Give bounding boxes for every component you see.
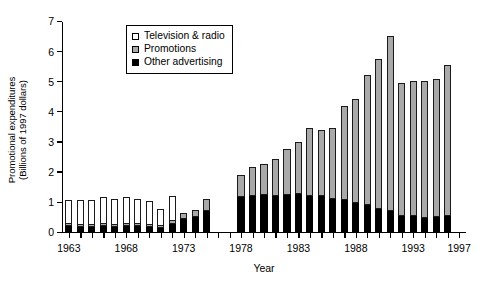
x-axis-tick-label: 1978 (229, 243, 252, 254)
bar-segment-other-advertising (421, 218, 428, 233)
bar-1995 (433, 79, 440, 233)
bar-segment-other-advertising (387, 211, 394, 233)
x-axis-tick (390, 233, 391, 238)
y-axis-tick-label: 6 (48, 46, 54, 57)
bar-segment-promotions (341, 106, 348, 200)
x-axis-tick (207, 233, 208, 238)
bar-1982 (283, 149, 290, 233)
x-axis-tick (103, 233, 104, 238)
bar-segment-other-advertising (237, 197, 244, 233)
y-axis-title-line2: (Billions of 1997 dollars) (17, 80, 29, 180)
legend-label-television-radio: Television & radio (144, 31, 225, 41)
bar-segment-other-advertising (180, 219, 187, 233)
legend-item-other-advertising: Other advertising (132, 56, 225, 69)
bar-1972 (169, 196, 176, 233)
bar-1981 (272, 159, 279, 233)
bar-segment-other-advertising (283, 195, 290, 233)
bar-segment-promotions (272, 159, 279, 196)
legend-label-promotions: Promotions (144, 44, 196, 54)
bar-segment-promotions (180, 213, 187, 220)
bar-1966 (100, 197, 107, 233)
x-axis-tick (264, 233, 265, 238)
x-axis-tick (138, 233, 139, 238)
bar-segment-promotions (192, 210, 199, 218)
bar-segment-other-advertising (123, 226, 130, 233)
legend-item-promotions: Promotions (132, 43, 225, 56)
bar-1993 (410, 81, 417, 233)
bar-segment-promotions (444, 65, 451, 216)
bar-segment-other-advertising (410, 216, 417, 233)
x-axis-tick (356, 233, 357, 238)
bar-1996 (444, 65, 451, 233)
x-axis-tick (218, 233, 219, 238)
legend-label-other-advertising: Other advertising (144, 57, 222, 67)
y-axis-tick-label: 2 (48, 167, 54, 178)
x-axis-tick (161, 233, 162, 238)
bar-1985 (318, 130, 325, 233)
bar-segment-other-advertising (318, 196, 325, 233)
bar-segment-television-radio (169, 196, 176, 220)
bar-segment-promotions (203, 199, 210, 212)
x-axis-tick (287, 233, 288, 238)
x-axis-tick (459, 233, 460, 238)
bar-segment-other-advertising (65, 226, 72, 233)
y-axis-title-line1: Promotional expenditures (6, 77, 18, 183)
x-axis-tick-label: 1997 (447, 243, 470, 254)
bar-1963 (65, 200, 72, 233)
bar-segment-other-advertising (192, 217, 199, 233)
y-axis-tick-label: 4 (48, 107, 54, 118)
bar-segment-promotions (260, 164, 267, 195)
x-axis-tick (321, 233, 322, 238)
bar-1965 (88, 200, 95, 233)
x-axis-tick (69, 233, 70, 238)
bar-1984 (306, 128, 313, 233)
bar-segment-promotions (364, 75, 371, 205)
bars-layer (62, 22, 466, 233)
bar-segment-television-radio (123, 197, 130, 224)
bar-segment-other-advertising (100, 226, 107, 233)
bar-1992 (398, 83, 405, 233)
promotional-expenditures-chart: Promotional expenditures (Billions of 19… (0, 0, 490, 286)
bar-segment-promotions (387, 36, 394, 211)
x-axis-tick (344, 233, 345, 238)
x-axis-tick (80, 233, 81, 238)
bar-segment-other-advertising (364, 205, 371, 233)
x-axis-tick (92, 233, 93, 238)
bar-segment-promotions (375, 59, 382, 209)
bar-segment-other-advertising (433, 217, 440, 233)
x-axis-tick (115, 233, 116, 238)
x-axis-tick (367, 233, 368, 238)
bar-1987 (341, 106, 348, 233)
legend-swatch-promotions-icon (132, 46, 139, 53)
x-axis-tick (448, 233, 449, 238)
x-axis-tick-label: 1988 (344, 243, 367, 254)
y-axis-tick: 4 (57, 111, 62, 112)
y-axis-tick: 6 (57, 51, 62, 52)
bar-segment-promotions (318, 130, 325, 196)
bar-1968 (123, 197, 130, 233)
bar-1974 (192, 210, 199, 234)
y-axis-tick-label: 3 (48, 137, 54, 148)
bar-1973 (180, 213, 187, 233)
x-axis-tick (425, 233, 426, 238)
bar-segment-television-radio (111, 199, 118, 224)
bar-1980 (260, 164, 267, 233)
legend-item-television-radio: Television & radio (132, 30, 225, 43)
x-axis-tick (275, 233, 276, 238)
bar-segment-promotions (295, 142, 302, 194)
bar-segment-other-advertising (249, 196, 256, 233)
bar-segment-other-advertising (341, 200, 348, 233)
bar-segment-television-radio (65, 200, 72, 224)
x-axis-tick (253, 233, 254, 238)
bar-segment-promotions (283, 149, 290, 195)
bar-segment-promotions (352, 99, 359, 203)
y-axis-title: Promotional expenditures (Billions of 19… (4, 15, 30, 245)
bar-segment-promotions (433, 79, 440, 217)
x-axis-tick (310, 233, 311, 238)
y-axis-tick: 3 (57, 141, 62, 142)
x-axis-tick (413, 233, 414, 238)
bar-segment-other-advertising (134, 226, 141, 233)
bar-1979 (249, 167, 256, 233)
plot-area: 01234567 1963196819731978198319881993199… (62, 22, 466, 233)
x-axis-tick (172, 233, 173, 238)
